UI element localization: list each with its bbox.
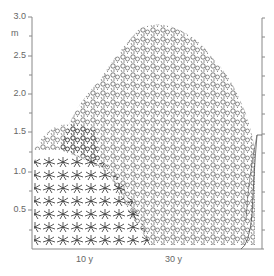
y-tick-label: 3.0 bbox=[2, 11, 26, 21]
y-tick-label: 2.0 bbox=[2, 88, 26, 98]
x-label-10y: 10 y bbox=[76, 254, 93, 264]
y-axis-unit: m bbox=[11, 28, 19, 38]
x-label-30y: 30 y bbox=[165, 254, 182, 264]
y-tick-label: 1.0 bbox=[2, 166, 26, 176]
vegetation-profile-drawing bbox=[0, 0, 274, 276]
y-tick-label: 2.5 bbox=[2, 50, 26, 60]
right-axis bbox=[262, 18, 265, 249]
y-tick-label: 1.5 bbox=[2, 126, 26, 136]
left-axis bbox=[28, 17, 32, 249]
y-tick-label: 0.5 bbox=[2, 204, 26, 214]
